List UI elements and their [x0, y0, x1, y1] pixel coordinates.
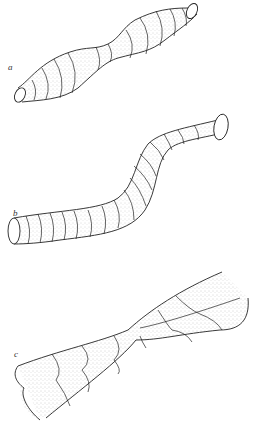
tube-a-illustration: [0, 0, 265, 110]
tube-b-illustration: [0, 110, 265, 270]
tube-c-illustration: [0, 270, 265, 433]
